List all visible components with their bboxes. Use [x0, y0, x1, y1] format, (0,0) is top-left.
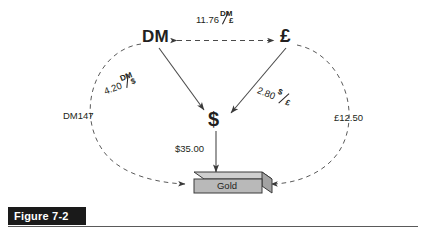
- figure-divider-rule: [8, 226, 418, 227]
- edge-dm-dollar: [159, 48, 204, 110]
- fraction-numerator: $: [276, 88, 283, 97]
- amount-label-dm-to-gold: DM147: [63, 111, 94, 121]
- fraction-denominator: £: [229, 17, 233, 25]
- amount-label-dollar-to-gold: $35.00: [175, 144, 204, 154]
- gold-bar-label: Gold: [196, 181, 258, 191]
- fraction-denominator: £: [284, 99, 291, 108]
- fraction-dm-per-pound: DM £: [220, 12, 237, 26]
- node-label-pound: £: [280, 26, 291, 45]
- rate-label-dm-per-pound: 11.76 DM £: [196, 12, 237, 26]
- figure-container: pound --> DM £ $ 11.76 DM £ 4.20 DM: [0, 0, 421, 238]
- figure-caption-text: Figure 7-2: [14, 211, 69, 222]
- rate-value-dm-per-pound: 11.76: [196, 14, 219, 25]
- amount-label-pound-to-gold: £12.50: [334, 113, 363, 123]
- currency-flow-diagram: pound -->: [0, 0, 421, 204]
- node-label-dm: DM: [142, 28, 169, 45]
- fraction-denominator: $: [130, 77, 137, 86]
- node-label-dollar: $: [208, 109, 219, 129]
- gold-bar-top-face: [194, 172, 272, 179]
- gold-bar-side-face: [262, 172, 272, 193]
